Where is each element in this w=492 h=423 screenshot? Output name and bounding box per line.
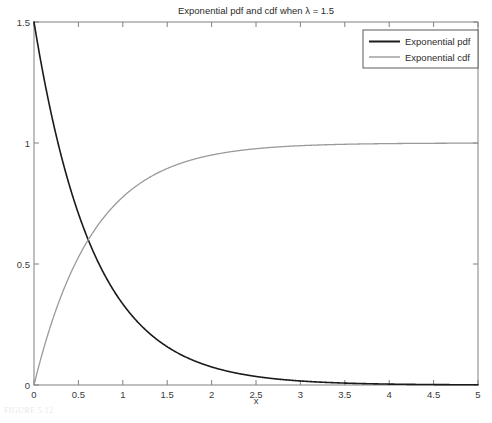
x-tick-label: 1: [120, 389, 125, 400]
legend[interactable]: Exponential pdf Exponential cdf: [363, 30, 478, 68]
figure-caption: FIGURE 5.12: [4, 406, 53, 415]
x-tick-label: 5: [475, 389, 480, 400]
plot-frame: [34, 22, 478, 385]
figure-root: Exponential pdf and cdf when λ = 1.5 00.…: [0, 0, 492, 423]
x-axis-ticks: [34, 22, 478, 385]
x-tick-label: 0.5: [72, 389, 85, 400]
x-tick-label: 2: [209, 389, 214, 400]
y-tick-label: 1: [25, 138, 30, 149]
x-tick-label: 0: [31, 389, 36, 400]
chart-title: Exponential pdf and cdf when λ = 1.5: [178, 5, 334, 16]
chart-canvas: Exponential pdf and cdf when λ = 1.5 00.…: [0, 0, 492, 423]
y-tick-label: 1.5: [17, 17, 30, 28]
x-tick-label: 3: [298, 389, 303, 400]
legend-label-exponential-pdf: Exponential pdf: [405, 36, 471, 47]
y-tick-label: 0: [25, 380, 30, 391]
series-layer: [34, 22, 478, 385]
series-line-exponential-pdf: [34, 22, 478, 385]
x-tick-label: 4: [387, 389, 392, 400]
x-axis-label: x: [254, 395, 259, 406]
series-line-exponential-cdf: [34, 143, 478, 385]
x-tick-label: 4.5: [427, 389, 440, 400]
x-tick-label: 1.5: [161, 389, 174, 400]
legend-label-exponential-cdf: Exponential cdf: [405, 52, 470, 63]
y-axis-ticks: [34, 22, 478, 385]
x-tick-label: 3.5: [338, 389, 351, 400]
y-axis-tick-labels: 00.511.5: [17, 17, 30, 391]
y-tick-label: 0.5: [17, 259, 30, 270]
